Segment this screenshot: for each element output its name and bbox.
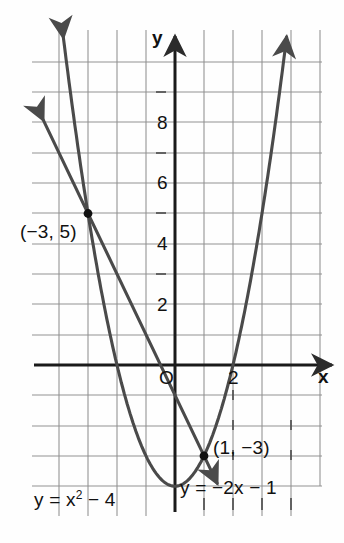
y-tick-label-4: 4 (157, 234, 168, 253)
equation-parabola-exponent: 2 (76, 488, 83, 502)
intersection-point-1 (84, 209, 93, 218)
equation-parabola: y = x2 − 4 (34, 489, 116, 509)
x-tick-label-2: 2 (228, 368, 239, 387)
y-axis-label: y (152, 28, 163, 47)
curve-line (43, 120, 217, 484)
point-label-1-minus3: (1, −3) (213, 438, 270, 457)
equation-line: y = −2x − 1 (180, 478, 277, 497)
x-axis-label: x (318, 367, 329, 386)
point-label-minus3-5: (−3, 5) (20, 222, 77, 241)
y-tick-label-2: 2 (157, 295, 168, 314)
graph-figure: y x 8 6 4 2 O 2 (−3, 5) (1, −3) y = x2 −… (0, 0, 344, 543)
y-tick-label-6: 6 (157, 173, 168, 192)
coordinate-plane (0, 0, 344, 543)
y-tick-label-8: 8 (157, 113, 168, 132)
intersection-point-2 (200, 452, 209, 461)
origin-label: O (159, 368, 174, 387)
equation-parabola-base: y = x (34, 489, 76, 510)
equation-parabola-tail: − 4 (83, 489, 116, 510)
